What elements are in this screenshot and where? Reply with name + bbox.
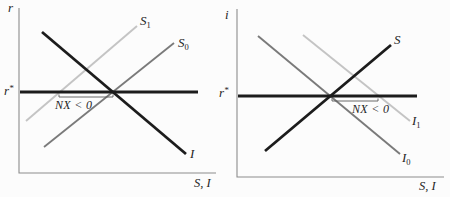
left-panel: r r* S, I NX < 0 S1 S0 I <box>4 0 216 190</box>
right-y-axis-label: i <box>225 7 229 22</box>
s0-curve-label: S0 <box>178 35 189 52</box>
left-y-axis-label: r <box>8 0 14 15</box>
i1-curve-label: I1 <box>411 113 421 130</box>
right-x-axis-label: S, I <box>419 179 437 193</box>
right-panel: i r* S, I NX < 0 I1 I0 S <box>219 7 444 193</box>
two-panel-saving-investment-figure: r r* S, I NX < 0 S1 S0 I i r* S, I <box>0 0 450 197</box>
right-axes <box>237 9 444 177</box>
right-world-rate-label: r* <box>219 85 229 100</box>
left-x-axis-label: S, I <box>194 176 212 190</box>
nx-annotation: NX < 0 <box>351 102 389 116</box>
s1-curve-label: S1 <box>140 13 151 30</box>
nx-gap-bracket <box>332 99 378 102</box>
left-axes <box>19 8 216 173</box>
nx-gap-bracket <box>59 95 113 98</box>
nx-annotation: NX < 0 <box>54 98 92 112</box>
investment-curve-label: I <box>189 146 195 161</box>
i0-curve-label: I0 <box>401 150 411 167</box>
saving-curve <box>265 45 391 151</box>
saving-curve-label: S <box>394 32 401 47</box>
s0-curve <box>44 43 174 147</box>
left-world-rate-label: r* <box>4 83 14 98</box>
